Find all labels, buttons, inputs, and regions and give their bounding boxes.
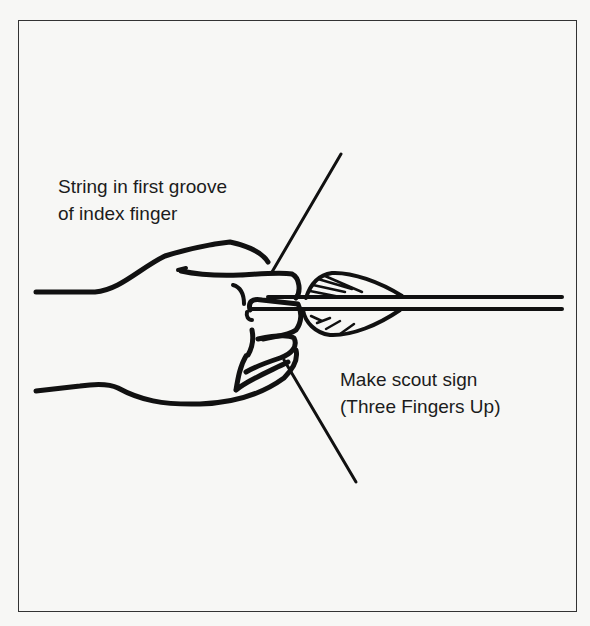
annotation-line: (Three Fingers Up) bbox=[340, 393, 501, 420]
archery-hand-illustration bbox=[0, 0, 590, 626]
annotation-line: Make scout sign bbox=[340, 366, 501, 393]
scout-sign-annotation: Make scout sign (Three Fingers Up) bbox=[340, 366, 501, 420]
annotation-line: of index finger bbox=[58, 200, 227, 227]
string-groove-annotation: String in first groove of index finger bbox=[58, 173, 227, 227]
annotation-line: String in first groove bbox=[58, 173, 227, 200]
hand-icon bbox=[36, 242, 301, 404]
